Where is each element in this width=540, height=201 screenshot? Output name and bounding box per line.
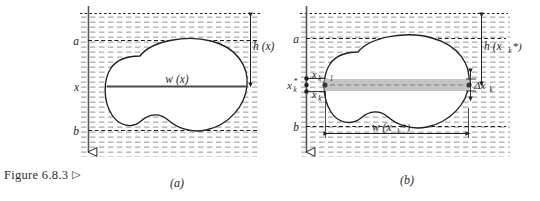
panel-b-strip-left-endpoint bbox=[322, 82, 327, 87]
panel-a-label-x: x bbox=[73, 81, 80, 93]
panel-b-bottom-label: (b) bbox=[400, 173, 414, 188]
panel-a-label-a: a bbox=[73, 35, 79, 47]
svg-text:w (x: w (x bbox=[372, 121, 392, 134]
svg-text:h (x: h (x bbox=[484, 40, 502, 53]
svg-text:x: x bbox=[311, 89, 317, 100]
svg-text:k − 1: k − 1 bbox=[318, 75, 333, 83]
panel-b-label-b: b bbox=[293, 121, 299, 133]
svg-text:*: * bbox=[293, 77, 297, 86]
panel-b-xk-dot bbox=[304, 89, 308, 93]
figure-caption: Figure 6.8.3▷ bbox=[4, 168, 81, 183]
svg-text:*): *) bbox=[401, 121, 411, 134]
svg-text:Δx: Δx bbox=[473, 79, 485, 91]
figure-6-8-3: a x b w (x) h (x) bbox=[0, 0, 540, 201]
figure-caption-text: Figure 6.8.3 bbox=[4, 168, 68, 182]
figure-canvas: a x b w (x) h (x) bbox=[0, 0, 540, 201]
svg-text:k: k bbox=[293, 86, 297, 94]
panel-b-label-a: a bbox=[293, 33, 299, 45]
panel-b-xk-minus-1-dot bbox=[304, 76, 308, 80]
panel-a-depth-label: h (x) bbox=[253, 40, 275, 53]
panel-a-label-b: b bbox=[73, 125, 79, 137]
panel-b-strip bbox=[325, 79, 470, 91]
panel-b-sample-point-label: x k * bbox=[286, 77, 297, 94]
panel-b-xk-star-dot bbox=[304, 83, 308, 87]
svg-text:x: x bbox=[286, 79, 292, 91]
panel-a-bottom-label: (a) bbox=[170, 176, 184, 191]
svg-text:*): *) bbox=[513, 40, 523, 53]
panel-a-width-label: w (x) bbox=[165, 73, 188, 86]
figure-caption-marker-icon: ▷ bbox=[72, 168, 80, 181]
svg-text:x: x bbox=[311, 69, 317, 80]
